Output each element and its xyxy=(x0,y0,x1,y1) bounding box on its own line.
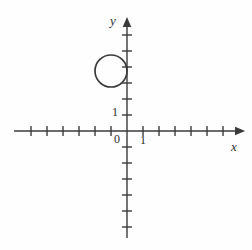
y-axis-tick-label-1: 1 xyxy=(112,106,118,118)
x-axis-label: x xyxy=(231,140,237,153)
origin-label: 0 xyxy=(114,133,120,145)
y-axis-label: y xyxy=(110,14,116,27)
graphed-circle xyxy=(95,55,127,87)
coordinate-plane-figure: y x 0 1 1 xyxy=(0,0,252,250)
x-axis-tick-label-1: 1 xyxy=(140,134,146,146)
plot-canvas xyxy=(0,0,252,250)
